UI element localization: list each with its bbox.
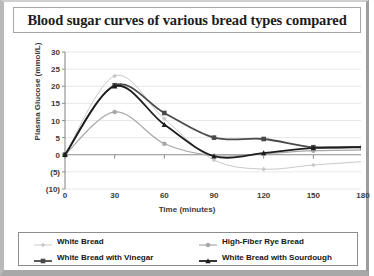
chart-window-inner: Blood sugar curves of various bread type… — [8, 4, 366, 266]
legend-item-white-bread[interactable]: White Bread — [19, 233, 188, 249]
legend-label: White Bread — [57, 237, 104, 246]
data-point-marker — [41, 243, 46, 248]
legend-label: White Bread with Vinegar — [57, 253, 153, 262]
chart-legend: White BreadHigh-Fiber Rye BreadWhite Bre… — [18, 232, 358, 266]
page-title: Blood sugar curves of various bread type… — [27, 12, 346, 29]
legend-marker-icon — [33, 236, 53, 246]
series-line — [65, 86, 361, 158]
legend-item-white-bread-with-vinegar[interactable]: White Bread with Vinegar — [19, 249, 188, 265]
series-white-bread-with-sourdough — [62, 84, 361, 159]
data-point-marker — [261, 137, 266, 142]
legend-item-high-fiber-rye-bread[interactable]: High-Fiber Rye Bread — [188, 233, 357, 249]
data-point-marker — [162, 111, 167, 116]
legend-label: White Bread with Sourdough — [222, 253, 332, 262]
series-line — [65, 112, 361, 156]
series-white-bread-with-vinegar — [63, 83, 361, 157]
legend-marker-icon — [198, 252, 218, 262]
line-chart-canvas — [13, 35, 361, 227]
legend-label: High-Fiber Rye Bread — [222, 237, 304, 246]
chart-plot-card: Plasma Glucose (mmol/L) Time (minutes) 3… — [13, 35, 361, 227]
chart-title-bar: Blood sugar curves of various bread type… — [13, 7, 361, 33]
series-white-bread — [63, 74, 361, 172]
series-high-fiber-rye-bread — [63, 110, 361, 158]
data-point-marker — [112, 74, 117, 79]
data-point-marker — [41, 259, 46, 264]
legend-item-white-bread-with-sourdough[interactable]: White Bread with Sourdough — [188, 249, 357, 265]
legend-marker-icon — [33, 252, 53, 262]
data-point-marker — [112, 110, 117, 115]
data-point-marker — [311, 163, 316, 168]
data-point-marker — [162, 141, 167, 146]
data-point-marker — [212, 135, 217, 140]
data-point-marker — [261, 167, 266, 172]
series-line — [65, 84, 361, 155]
legend-marker-icon — [198, 236, 218, 246]
data-point-marker — [206, 243, 211, 248]
